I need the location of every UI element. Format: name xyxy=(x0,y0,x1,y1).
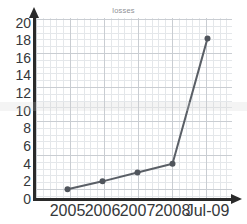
series-losses xyxy=(0,0,247,224)
data-point-2008 xyxy=(170,161,176,167)
data-point-Jul-09 xyxy=(205,35,211,41)
line-chart: losses 02468101214161820 200520062007200… xyxy=(0,0,247,224)
series-line xyxy=(68,38,208,189)
data-point-2005 xyxy=(65,186,71,192)
series-marker-group xyxy=(65,35,211,192)
data-point-2006 xyxy=(100,178,106,184)
data-point-2007 xyxy=(135,170,141,176)
